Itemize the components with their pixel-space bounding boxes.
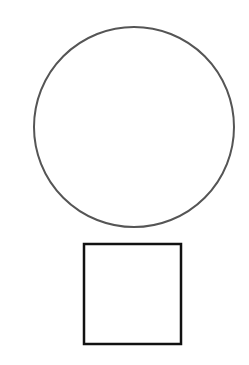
circle-shape [34,27,234,227]
diagram-canvas [0,0,249,365]
square-shape [84,244,181,344]
